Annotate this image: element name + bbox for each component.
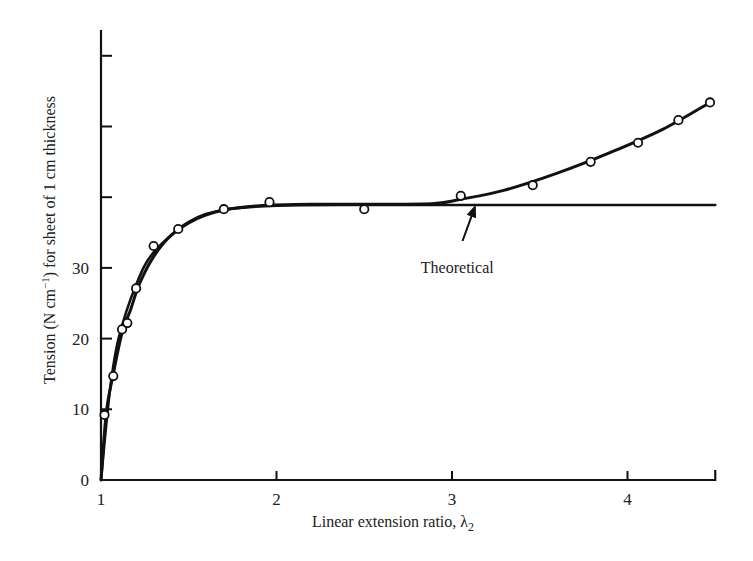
- x-axis-title: Linear extension ratio, λ2: [312, 513, 474, 534]
- annotation-arrow-icon: [463, 207, 476, 241]
- data-point: [529, 181, 537, 189]
- y-tick-label: 20: [72, 330, 89, 349]
- data-point: [109, 372, 117, 380]
- experimental-curve: [101, 102, 710, 480]
- data-point: [457, 192, 465, 200]
- x-axis: [101, 470, 715, 480]
- x-axis-title-subscript: 2: [468, 520, 474, 534]
- data-point: [100, 411, 108, 419]
- x-tick-label: 3: [448, 490, 457, 509]
- data-point: [706, 98, 714, 106]
- data-point: [132, 284, 140, 292]
- y-axis-title-main: Tension (N cm: [41, 289, 59, 384]
- data-point: [674, 116, 682, 124]
- theoretical-curve: [101, 205, 715, 480]
- annotation-theoretical: Theoretical: [421, 259, 494, 276]
- y-tick-label: 30: [72, 259, 89, 278]
- series-layer: [100, 98, 715, 480]
- data-point: [174, 225, 182, 233]
- x-axis-title-main: Linear extension ratio, λ: [312, 513, 468, 530]
- x-tick-label: 1: [97, 490, 106, 509]
- axes: 0102030 1234: [72, 30, 715, 509]
- x-ticks: 1234: [97, 471, 633, 509]
- chart: 0102030 1234 Theoretical Linear extensio…: [0, 0, 753, 561]
- data-point: [149, 242, 157, 250]
- annotation-layer: Theoretical: [421, 207, 494, 276]
- y-axis-title-rest: ) for sheet of 1 cm thickness: [41, 96, 59, 277]
- y-axis-title-superscript: −1: [39, 277, 51, 289]
- data-point: [634, 139, 642, 147]
- y-tick-label: 0: [81, 471, 90, 490]
- data-point: [360, 205, 368, 213]
- data-point: [586, 158, 594, 166]
- data-point: [123, 319, 131, 327]
- x-tick-label: 2: [272, 490, 281, 509]
- x-tick-label: 4: [623, 490, 632, 509]
- y-axis-title: Tension (N cm−1) for sheet of 1 cm thick…: [39, 96, 59, 384]
- y-tick-label: 10: [72, 400, 89, 419]
- data-point: [265, 198, 273, 206]
- data-point: [220, 205, 228, 213]
